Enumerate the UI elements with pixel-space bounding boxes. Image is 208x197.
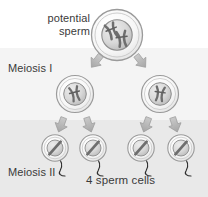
cell-meiosis-i-left [57,76,94,113]
label-potential-sperm: potential sperm [22,12,90,37]
nucleus [149,83,172,106]
cell-potential-sperm [92,10,143,61]
label-meiosis-i: Meiosis I [8,62,52,75]
label-meiosis-ii: Meiosis II [8,166,55,179]
arrow-meiosis-ii-2 [81,116,98,134]
sperm-cell-4 [168,135,194,176]
nucleus [64,83,87,106]
arrow-meiosis-ii-3 [138,115,155,134]
arrow-meiosis-ii-4 [167,116,184,134]
meiosis-diagram: potential sperm Meiosis I Meiosis II 4 s… [0,0,208,197]
cell-meiosis-i-right [142,76,179,113]
sperm-cell-2 [80,135,106,176]
arrow-meiosis-ii-1 [53,115,70,134]
label-four-sperm-cells: 4 sperm cells [86,174,155,187]
sperm-cell-3 [128,135,154,176]
